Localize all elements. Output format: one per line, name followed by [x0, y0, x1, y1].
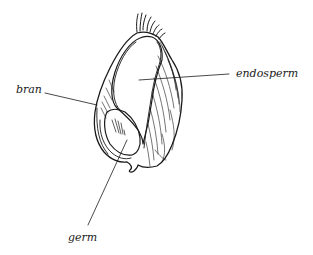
wheat-kernel-drawing	[0, 0, 313, 255]
label-germ: germ	[68, 232, 97, 243]
bran-leader-line	[45, 93, 97, 105]
brush-hairs	[137, 13, 165, 39]
label-bran: bran	[16, 84, 42, 95]
kernel-outline	[94, 32, 182, 172]
label-endosperm: endosperm	[236, 68, 298, 79]
endosperm-leader-line	[139, 74, 229, 80]
